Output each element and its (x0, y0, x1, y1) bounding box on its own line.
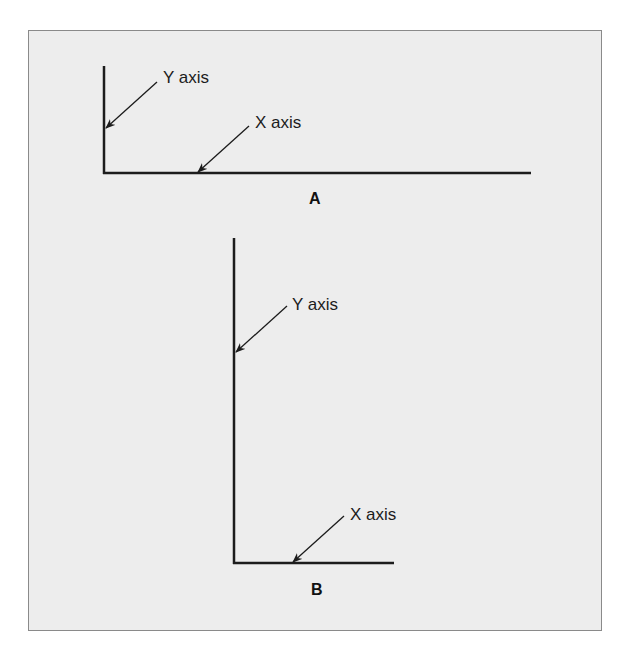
panel-b-x-axis-label: X axis (350, 505, 396, 525)
panel-b-y-arrow (236, 306, 287, 352)
panel-b-x-arrow (293, 516, 344, 562)
panel-a-x-arrow (198, 126, 249, 172)
panel-a-y-arrow (106, 82, 157, 128)
panel-b-y-axis-label: Y axis (292, 295, 338, 315)
axes-diagram (0, 0, 632, 658)
panel-a-label: A (309, 190, 321, 208)
panel-a-x-axis-label: X axis (255, 113, 301, 133)
panel-a-y-axis-label: Y axis (163, 68, 209, 88)
panel-b-label: B (311, 581, 323, 599)
